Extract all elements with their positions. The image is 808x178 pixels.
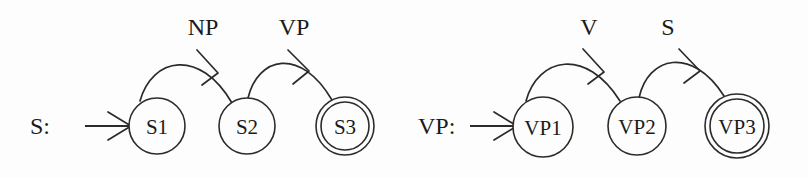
state-label-s3: S3 xyxy=(334,115,356,139)
transition-arc-s2-s3 xyxy=(248,63,332,100)
state-label-vp2: VP2 xyxy=(618,115,655,139)
state-label-s2: S2 xyxy=(236,115,258,139)
transition-s1-s2: NP xyxy=(140,14,232,103)
machine-label-vp: VP: xyxy=(418,113,455,139)
transition-label-v: V xyxy=(580,14,598,40)
transition-label-s-right: S xyxy=(661,14,674,40)
state-s1: S1 xyxy=(129,98,185,154)
state-s2: S2 xyxy=(219,98,275,154)
start-arrow-vp xyxy=(470,112,517,140)
fsa-diagram-canvas: S: NP VP S1 S2 xyxy=(0,0,808,178)
transition-arc-vp2-vp3 xyxy=(639,62,724,98)
transition-label-vp-left: VP xyxy=(279,14,310,40)
state-label-s1: S1 xyxy=(146,115,168,139)
machine-vp-machine: VP: V S VP1 VP2 xyxy=(418,14,769,158)
transition-s2-s3: VP xyxy=(248,14,332,100)
state-label-vp3: VP3 xyxy=(718,115,755,139)
transition-arrowhead-vp2-vp3 xyxy=(679,49,700,83)
transition-arc-vp1-vp2 xyxy=(526,64,620,101)
machine-label-s: S: xyxy=(30,113,50,139)
transition-vp2-vp3: S xyxy=(639,14,724,98)
state-vp2: VP2 xyxy=(608,97,666,155)
state-vp1: VP1 xyxy=(513,97,573,157)
transition-vp1-vp2: V xyxy=(526,14,620,101)
transition-label-np: NP xyxy=(188,14,219,40)
state-s3-accepting: S3 xyxy=(316,97,374,155)
state-vp3-accepting: VP3 xyxy=(705,94,769,158)
machine-s-machine: S: NP VP S1 S2 xyxy=(30,14,374,155)
transition-arc-s1-s2 xyxy=(140,65,232,103)
fsa-figure: S: NP VP S1 S2 xyxy=(0,0,808,178)
state-label-vp1: VP1 xyxy=(524,116,561,140)
start-arrow-s xyxy=(85,112,131,140)
